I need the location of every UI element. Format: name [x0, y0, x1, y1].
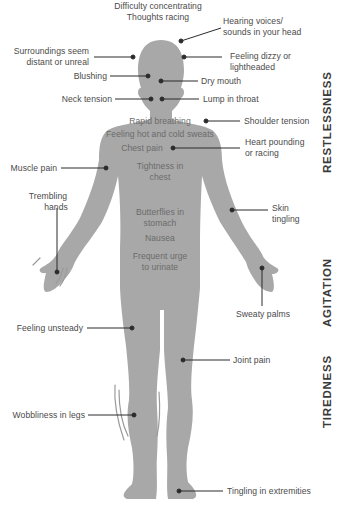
label-hearing-voices-line2: sounds in your head	[223, 27, 301, 38]
label-chest-pain: Chest pain	[118, 143, 166, 154]
label-shoulder-tension: Shoulder tension	[244, 116, 309, 127]
label-heart-pounding-line1: Heart pounding	[245, 137, 304, 148]
label-dizzy-line1: Feeling dizzy or	[230, 51, 291, 62]
label-butterflies-line1: Butterflies in	[120, 207, 200, 218]
label-thoughts-racing: Thoughts racing	[108, 12, 208, 23]
label-hot-cold-sweats: Feeling hot and cold sweats	[100, 129, 220, 140]
label-neck-tension: Neck tension	[40, 94, 112, 105]
label-muscle-pain: Muscle pain	[0, 163, 57, 174]
label-blushing: Blushing	[40, 71, 107, 82]
anxiety-symptoms-body-diagram: RESTLESSNESS AGITATION TIREDNESS Difficu…	[0, 0, 351, 522]
label-skin-tingling-line2: tingling	[272, 214, 300, 225]
label-feeling-unsteady: Feeling unsteady	[0, 323, 83, 334]
label-tightness-line1: Tightness in	[120, 161, 200, 172]
label-lump-in-throat: Lump in throat	[203, 94, 259, 105]
label-trembling-line1: Trembling	[20, 191, 76, 202]
label-rapid-breathing: Rapid breathing	[110, 116, 210, 127]
label-urinate-line2: to urinate	[115, 262, 205, 273]
label-surroundings-line2: distant or unreal	[0, 57, 89, 68]
label-heart-pounding-line2: or racing	[245, 148, 279, 159]
section-label-restlessness: RESTLESSNESS	[321, 93, 333, 173]
label-sweaty-palms: Sweaty palms	[230, 309, 296, 320]
label-trembling-line2: hands	[28, 202, 84, 213]
label-nausea: Nausea	[120, 233, 200, 244]
label-butterflies-line2: stomach	[120, 218, 200, 229]
label-tingling-extremities: Tingling in extremities	[227, 486, 311, 497]
label-skin-tingling-line1: Skin	[272, 203, 289, 214]
label-hearing-voices-line1: Hearing voices/	[223, 16, 283, 27]
label-surroundings-line1: Surroundings seem	[0, 46, 89, 57]
label-urinate-line1: Frequent urge	[115, 251, 205, 262]
section-label-agitation: AGITATION	[321, 267, 333, 327]
label-difficulty-concentrating: Difficulty concentrating	[108, 1, 208, 12]
section-label-tiredness: TIREDNESS	[321, 368, 333, 428]
label-wobbliness: Wobbliness in legs	[0, 410, 85, 421]
label-tightness-line2: chest	[120, 172, 200, 183]
label-dizzy-line2: lightheaded	[230, 62, 275, 73]
label-dry-mouth: Dry mouth	[201, 76, 241, 87]
label-joint-pain: Joint pain	[233, 355, 270, 366]
